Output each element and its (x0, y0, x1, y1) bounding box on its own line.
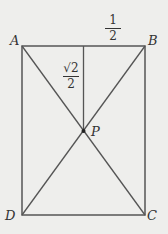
fraction-denominator: 2 (109, 30, 117, 43)
vertex-label-a: A (10, 33, 19, 48)
label-root2-over-2: √2 2 (63, 62, 79, 91)
vertex-label-b: B (148, 33, 158, 48)
point-p (82, 129, 86, 133)
fraction-numerator: 1 (109, 14, 117, 27)
label-one-half: 1 2 (105, 14, 121, 43)
vertex-label-c: C (147, 208, 157, 223)
fraction-denominator: 2 (67, 78, 75, 91)
rectangle-diagram (0, 0, 168, 234)
fraction-numerator: √2 (63, 62, 78, 75)
point-label-p: P (91, 124, 100, 139)
vertex-label-d: D (5, 208, 15, 223)
